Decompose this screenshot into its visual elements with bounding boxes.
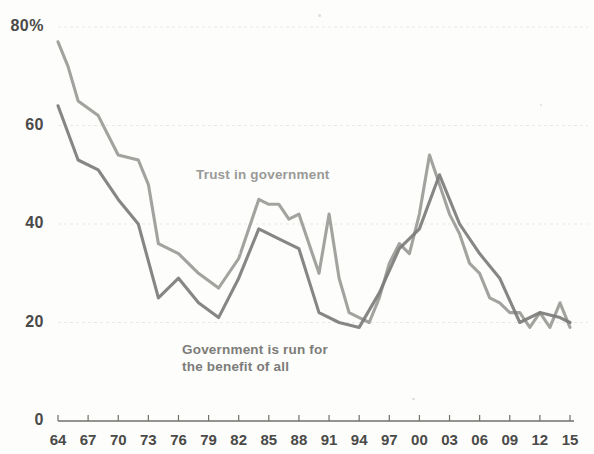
y-axis-label-0: 0 [0, 411, 44, 429]
series-line-trust-in-government [58, 42, 570, 328]
x-axis-label-06: 06 [467, 431, 493, 448]
x-axis-label-09: 09 [497, 431, 523, 448]
x-axis-label-82: 82 [226, 431, 252, 448]
chart-container: 020406080% 64677073767982858891949700030… [0, 0, 594, 454]
scan-speckle [318, 14, 321, 17]
scan-speckle [540, 104, 542, 106]
y-axis-label-20: 20 [0, 313, 44, 331]
x-axis-label-12: 12 [527, 431, 553, 448]
x-axis-label-88: 88 [286, 431, 312, 448]
x-axis-label-03: 03 [437, 431, 463, 448]
x-axis-label-64: 64 [45, 431, 71, 448]
y-axis-label-80: 80% [0, 17, 44, 35]
x-axis-label-15: 15 [557, 431, 583, 448]
x-axis-label-73: 73 [135, 431, 161, 448]
series-line-government-benefit-of-all [58, 106, 570, 328]
series-paths-group [58, 42, 570, 328]
x-axis-label-91: 91 [316, 431, 342, 448]
line-chart-plot [0, 0, 594, 454]
x-axis-label-85: 85 [256, 431, 282, 448]
x-axis-label-00: 00 [406, 431, 432, 448]
series-label-government-benefit-of-all: Government is run for the benefit of all [182, 341, 328, 375]
x-axis-label-97: 97 [376, 431, 402, 448]
x-axis-label-79: 79 [196, 431, 222, 448]
y-axis-label-40: 40 [0, 214, 44, 232]
y-axis-label-60: 60 [0, 116, 44, 134]
x-axis-label-70: 70 [105, 431, 131, 448]
scan-speckle [238, 252, 240, 254]
series-label-trust-in-government: Trust in government [196, 166, 330, 183]
scan-speckle [412, 398, 415, 400]
x-axis-label-94: 94 [346, 431, 372, 448]
x-axis-label-76: 76 [165, 431, 191, 448]
x-axis-group [58, 415, 574, 421]
x-axis-label-67: 67 [75, 431, 101, 448]
